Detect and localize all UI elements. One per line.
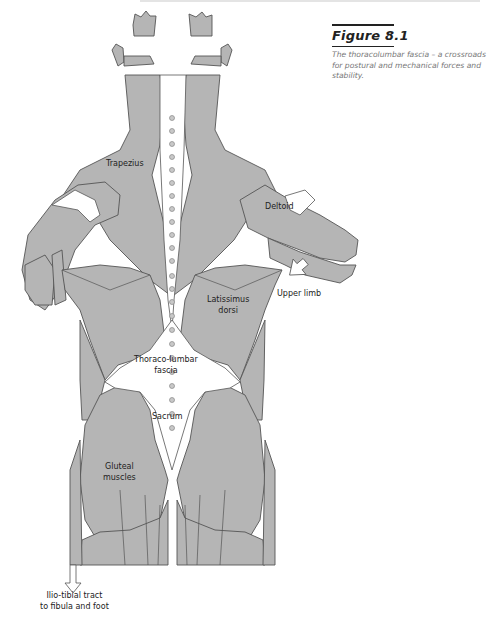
label-thoracolumbar-line2: fascia [134,365,198,376]
right-trapezius [172,75,280,295]
right-neck-fragment [189,12,212,36]
label-deltoid: Deltoid [265,201,294,212]
label-gluteal-line2: muscles [103,472,136,483]
spine-fascia [160,75,186,330]
iliotibial-arrow-icon [65,565,81,593]
label-latissimus-dorsi: Latissimus dorsi [207,294,249,316]
label-thoracolumbar-fascia: Thoraco-lumbar fascia [134,354,198,376]
left-trapezius [60,75,172,295]
label-upper-limb: Upper limb [277,288,321,299]
label-trapezius: Trapezius [106,158,144,169]
label-latissimus-line1: Latissimus [207,294,249,305]
left-neck-fragment [133,11,156,36]
label-gluteal-line1: Gluteal [103,461,136,472]
label-iliotibial-line1: Ilio-tibial tract [40,590,109,601]
label-iliotibial-line2: to fibula and foot [40,601,109,612]
label-thoracolumbar-line1: Thoraco-lumbar [134,354,198,365]
label-sacrum: Sacrum [152,411,183,422]
label-latissimus-line2: dorsi [207,305,249,316]
label-gluteal-muscles: Gluteal muscles [103,461,136,483]
label-iliotibial-tract: Ilio-tibial tract to fibula and foot [40,590,109,612]
back-muscles-illustration [0,0,499,629]
